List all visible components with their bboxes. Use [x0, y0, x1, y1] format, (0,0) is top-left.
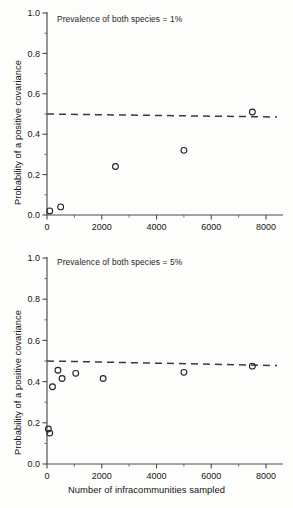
- data-point: [55, 367, 61, 373]
- svg-text:1.0: 1.0: [27, 254, 40, 263]
- svg-text:0.4: 0.4: [27, 377, 40, 387]
- reference-line: [47, 361, 277, 366]
- svg-text:2000: 2000: [92, 471, 112, 481]
- svg-text:1.0: 1.0: [27, 8, 40, 18]
- svg-text:8000: 8000: [256, 222, 276, 232]
- data-point: [249, 363, 255, 369]
- svg-text:8000: 8000: [256, 471, 276, 481]
- svg-text:0.8: 0.8: [27, 49, 40, 59]
- data-point: [181, 369, 187, 375]
- svg-text:6000: 6000: [201, 471, 221, 481]
- svg-text:0.4: 0.4: [27, 129, 40, 139]
- data-point: [181, 147, 187, 153]
- data-point: [59, 376, 65, 382]
- scatter-plot-bottom: 0.00.20.40.60.81.002000400060008000: [0, 254, 293, 508]
- svg-text:0.0: 0.0: [27, 210, 40, 220]
- annotation-prevalence-5pct: Prevalence of both species = 5%: [57, 257, 182, 267]
- x-axis-title: Number of infracommunities sampled: [0, 484, 293, 495]
- scatter-plot-top: 0.00.20.40.60.81.002000400060008000: [0, 0, 293, 254]
- y-axis-title-bottom: Probability of a positive covariance: [13, 310, 23, 455]
- svg-text:0.8: 0.8: [27, 294, 40, 304]
- svg-text:0.0: 0.0: [27, 459, 40, 469]
- svg-text:0.6: 0.6: [27, 336, 40, 346]
- svg-text:0: 0: [44, 471, 49, 481]
- data-point: [50, 384, 56, 390]
- svg-text:0: 0: [44, 222, 49, 232]
- svg-text:2000: 2000: [92, 222, 112, 232]
- data-point: [113, 164, 119, 170]
- svg-text:4000: 4000: [147, 471, 167, 481]
- y-axis-title-top: Probability of a positive covariance: [13, 60, 23, 205]
- svg-text:0.6: 0.6: [27, 89, 40, 99]
- svg-text:6000: 6000: [201, 222, 221, 232]
- annotation-prevalence-1pct: Prevalence of both species = 1%: [57, 14, 182, 24]
- figure-container: 0.00.20.40.60.81.002000400060008000 Prev…: [0, 0, 293, 508]
- data-point: [47, 208, 53, 214]
- svg-text:0.2: 0.2: [27, 418, 40, 428]
- svg-text:4000: 4000: [147, 222, 167, 232]
- data-point: [73, 370, 79, 376]
- svg-text:0.2: 0.2: [27, 170, 40, 180]
- data-point: [58, 204, 64, 210]
- data-point: [249, 109, 255, 115]
- data-point: [100, 376, 106, 382]
- chart-panel-bottom: 0.00.20.40.60.81.002000400060008000: [0, 254, 293, 508]
- reference-line: [47, 114, 277, 117]
- chart-panel-top: 0.00.20.40.60.81.002000400060008000 Prev…: [0, 0, 293, 254]
